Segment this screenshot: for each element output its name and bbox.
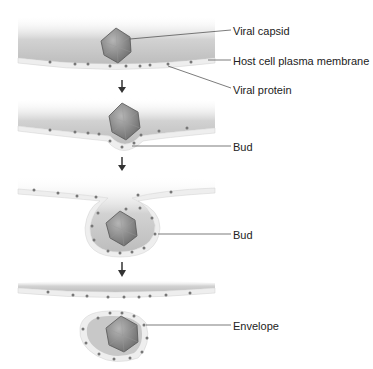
label-viral-protein: Viral protein — [233, 84, 292, 96]
stage-2 — [18, 98, 231, 172]
arrow-down-icon — [118, 270, 126, 277]
label-host-membrane: Host cell plasma membrane — [233, 55, 369, 67]
stage-3 — [18, 175, 231, 277]
label-envelope: Envelope — [233, 320, 279, 332]
label-viral-capsid: Viral capsid — [233, 25, 290, 37]
stage-4 — [18, 280, 231, 362]
label-bud-1: Bud — [233, 141, 253, 153]
stage-1 — [18, 15, 231, 93]
arrow-down-icon — [118, 87, 126, 93]
arrow-down-icon — [118, 165, 126, 171]
label-bud-2: Bud — [233, 229, 253, 241]
